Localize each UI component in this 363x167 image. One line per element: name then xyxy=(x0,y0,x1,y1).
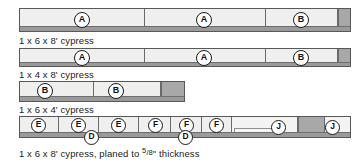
callout-f: F xyxy=(148,118,163,133)
callout-e: E xyxy=(111,118,126,133)
callout-j: J xyxy=(271,120,286,135)
callout-a: A xyxy=(196,12,212,28)
callout-b: B xyxy=(108,83,124,99)
caption-row-2: 1 x 4 x 8' cypress xyxy=(19,69,94,80)
callout-d: D xyxy=(84,130,99,145)
callout-b: B xyxy=(37,83,53,99)
fraction-five-eighths: 5/8 xyxy=(142,148,153,157)
callout-j: J xyxy=(325,120,340,135)
caption-row-3: 1 x 6 x 4' cypress xyxy=(19,104,94,115)
caption-row-4: 1 x 6 x 8' cypress, planed to 5/8" thick… xyxy=(19,146,200,159)
fraction-numerator: 5 xyxy=(142,146,146,155)
callout-b: B xyxy=(293,12,309,28)
callout-b: B xyxy=(293,50,309,66)
callout-e: E xyxy=(31,118,46,133)
callout-d: D xyxy=(178,130,193,145)
caption-row-1: 1 x 6 x 8' cypress xyxy=(19,35,94,46)
callout-a: A xyxy=(196,50,212,66)
callout-a: A xyxy=(74,12,90,28)
callout-e: E xyxy=(71,118,86,133)
caption-row-4-prefix: 1 x 6 x 8' cypress, planed to xyxy=(19,148,142,159)
cutting-diagram: A A B 1 x 6 x 8' cypress A A B 1 x 4 x 8… xyxy=(0,0,363,167)
callout-a: A xyxy=(74,50,90,66)
callout-f: F xyxy=(209,118,224,133)
caption-row-4-suffix: " thickness xyxy=(153,148,200,159)
